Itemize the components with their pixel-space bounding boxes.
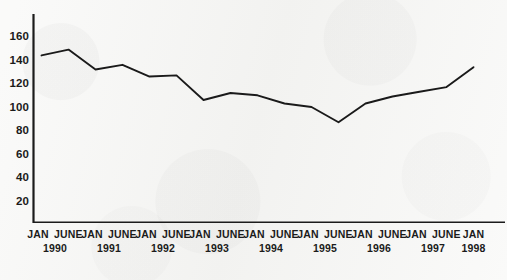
x-axis-year-group: JANJUNE1994 bbox=[241, 228, 301, 254]
x-axis-year-label: 1995 bbox=[295, 242, 355, 254]
x-axis-month-label: JAN bbox=[405, 228, 427, 240]
x-axis-year-label: 1993 bbox=[187, 242, 247, 254]
x-axis-month-label: JAN bbox=[27, 228, 49, 240]
x-axis-month-labels: JANJUNE bbox=[133, 228, 193, 240]
x-axis-year-label: 1996 bbox=[349, 242, 409, 254]
x-axis-month-labels: JANJUNE bbox=[349, 228, 409, 240]
x-axis-month-label: JAN bbox=[297, 228, 319, 240]
y-tick-label: 100 bbox=[0, 101, 29, 113]
x-axis-month-label: JAN bbox=[189, 228, 211, 240]
y-tick-label: 60 bbox=[0, 148, 29, 160]
x-axis-month-label: JAN bbox=[135, 228, 157, 240]
x-axis-month-labels: JANJUNE bbox=[79, 228, 139, 240]
y-tick-label: 20 bbox=[0, 195, 29, 207]
x-axis-year-group: JANJUNE1991 bbox=[79, 228, 139, 254]
y-tick-label: 160 bbox=[0, 30, 29, 42]
y-tick-label: 140 bbox=[0, 54, 29, 66]
line-chart-figure: 20406080100120140160 JANJUNE1990JANJUNE1… bbox=[0, 0, 507, 280]
data-series-line bbox=[42, 50, 474, 123]
x-axis-month-labels: JANJUNE bbox=[25, 228, 85, 240]
x-axis-year-label: 1990 bbox=[25, 242, 85, 254]
x-axis-year-group: JANJUNE1995 bbox=[295, 228, 355, 254]
x-axis-month-labels: JANJUNE bbox=[295, 228, 355, 240]
x-axis-month-label: JAN bbox=[243, 228, 265, 240]
y-tick-label: 40 bbox=[0, 171, 29, 183]
x-axis-month-labels: JANJUNE bbox=[241, 228, 301, 240]
x-axis-year-group: JANJUNE1993 bbox=[187, 228, 247, 254]
x-axis-year-label: 1991 bbox=[79, 242, 139, 254]
x-axis-month-label: JAN bbox=[463, 228, 485, 240]
x-axis-year-label: 1994 bbox=[241, 242, 301, 254]
x-axis-year-group: JANJUNE1996 bbox=[349, 228, 409, 254]
chart-axes bbox=[33, 14, 505, 223]
y-tick-label: 80 bbox=[0, 124, 29, 136]
x-axis-year-group: JAN1998 bbox=[444, 228, 504, 254]
x-axis-month-label: JAN bbox=[81, 228, 103, 240]
x-axis-month-labels: JAN bbox=[444, 228, 504, 240]
x-axis-month-label: JAN bbox=[351, 228, 373, 240]
y-tick-label: 120 bbox=[0, 77, 29, 89]
x-axis-month-labels: JANJUNE bbox=[187, 228, 247, 240]
x-axis-year-group: JANJUNE1990 bbox=[25, 228, 85, 254]
x-axis-year-group: JANJUNE1992 bbox=[133, 228, 193, 254]
x-axis-year-label: 1992 bbox=[133, 242, 193, 254]
x-axis-year-label: 1998 bbox=[444, 242, 504, 254]
